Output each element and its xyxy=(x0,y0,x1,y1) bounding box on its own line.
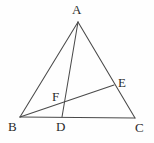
vertex-label-d: D xyxy=(56,120,65,133)
triangle-diagram-canvas xyxy=(0,0,154,143)
segment-AC xyxy=(78,22,135,118)
segment-BC xyxy=(20,117,135,118)
vertex-label-f: F xyxy=(52,90,59,103)
cevian-lines xyxy=(20,22,114,117)
segment-AB xyxy=(20,22,78,117)
vertex-label-e: E xyxy=(118,76,126,89)
vertex-label-b: B xyxy=(8,120,17,133)
triangle-outline xyxy=(20,22,135,118)
segment-AD xyxy=(62,22,78,117)
geometry-figure: A B C D E F xyxy=(0,0,154,143)
vertex-label-a: A xyxy=(72,3,81,16)
vertex-label-c: C xyxy=(135,121,144,134)
